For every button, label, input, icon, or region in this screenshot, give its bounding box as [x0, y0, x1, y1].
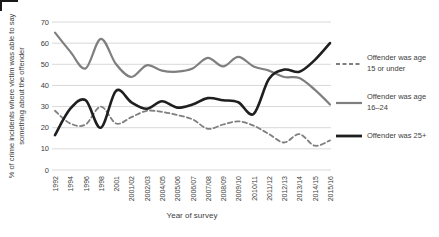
x-tick-label: 1994: [67, 176, 74, 192]
legend-item-label: Offender was age 15 or under: [367, 53, 431, 75]
y-tick-label: 10: [41, 144, 49, 153]
legend-swatch-solid-line: [336, 131, 362, 141]
x-axis-title: Year of survey: [122, 211, 262, 220]
x-tick-label: 2001: [113, 176, 120, 192]
x-tick-label: 2012/13: [281, 176, 288, 201]
x-tick-label: 2010/11: [251, 176, 258, 201]
legend: Offender was age 15 or underOffender was…: [336, 53, 436, 141]
legend-item-label: Offender was 25+: [367, 131, 431, 142]
x-tick-label: 1996: [83, 176, 90, 192]
x-tick-label: 2009/10: [235, 176, 242, 201]
x-tick-label: 2002/03: [144, 176, 151, 201]
y-tick-label: 0: [45, 166, 49, 175]
series-line-offender-was-age-15-or-under: [55, 107, 330, 146]
x-tick-label: 2013/14: [296, 176, 303, 201]
y-tick-label: 30: [41, 102, 49, 111]
y-tick-label: 60: [41, 39, 49, 48]
legend-item-offender-was-age-15-or-under: Offender was age 15 or under: [336, 53, 436, 75]
x-tick-label: 2004/05: [159, 176, 166, 201]
legend-swatch-solid-line: [336, 98, 362, 108]
legend-item-label: Offender was age 16–24: [367, 92, 431, 114]
x-tick-label: 2015/16: [327, 176, 334, 201]
x-tick-label: 2007/08: [205, 176, 212, 201]
x-tick-label: 2014/15: [312, 176, 319, 201]
x-tick-label: 2005/06: [174, 176, 181, 201]
chart-figure: % of crime incidents where victim was ab…: [0, 0, 439, 237]
series-line-offender-was-25: [55, 43, 330, 135]
legend-item-offender-was-25: Offender was 25+: [336, 131, 436, 142]
y-tick-label: 50: [41, 60, 49, 69]
y-tick-label: 70: [41, 18, 49, 27]
y-tick-label: 40: [41, 81, 49, 90]
y-tick-label: 20: [41, 123, 49, 132]
x-tick-label: 2008/09: [220, 176, 227, 201]
x-tick-label: 2011/12: [266, 176, 273, 201]
x-tick-label: 1998: [98, 176, 105, 192]
x-tick-label: 2006/07: [190, 176, 197, 201]
legend-item-offender-was-age-16-24: Offender was age 16–24: [336, 92, 436, 114]
legend-swatch-dashed-line: [336, 59, 362, 69]
x-tick-label: 1992: [52, 176, 59, 192]
x-tick-label: 2001/02: [128, 176, 135, 201]
